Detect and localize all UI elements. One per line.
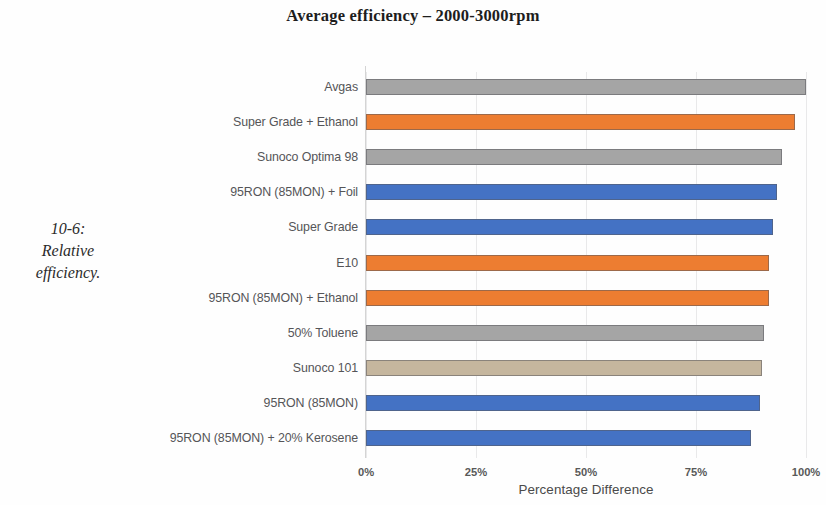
plot-area: AvgasSuper Grade + EthanolSunoco Optima … (366, 72, 806, 458)
bar (366, 219, 773, 235)
bar-row: Super Grade (366, 212, 806, 247)
chart-figure: Average efficiency – 2000-3000rpm 10-6: … (0, 0, 826, 505)
bar-row: 95RON (85MON) (366, 388, 806, 423)
category-label: Avgas (28, 79, 358, 95)
bar-row: E10 (366, 248, 806, 283)
bar-row: 95RON (85MON) + Foil (366, 177, 806, 212)
x-tick-label: 50% (551, 466, 621, 478)
category-label: Super Grade (28, 219, 358, 235)
bar (366, 290, 769, 306)
category-label: Sunoco 101 (28, 360, 358, 376)
category-label: Sunoco Optima 98 (28, 149, 358, 165)
gridline-100 (806, 72, 807, 458)
bar-row: 95RON (85MON) + 20% Kerosene (366, 423, 806, 458)
category-label: 95RON (85MON) + 20% Kerosene (28, 430, 358, 446)
bar (366, 79, 806, 95)
bar-row: 95RON (85MON) + Ethanol (366, 283, 806, 318)
category-label: 95RON (85MON) + Foil (28, 184, 358, 200)
bar (366, 255, 769, 271)
bar (366, 430, 751, 446)
category-label: 95RON (85MON) (28, 395, 358, 411)
bar (366, 360, 762, 376)
x-axis-title: Percentage Difference (366, 482, 806, 497)
bar-row: Sunoco Optima 98 (366, 142, 806, 177)
category-label: 50% Toluene (28, 325, 358, 341)
bar (366, 325, 764, 341)
bar (366, 149, 782, 165)
bar-row: 50% Toluene (366, 318, 806, 353)
x-tick-label: 100% (771, 466, 826, 478)
bar-row: Sunoco 101 (366, 353, 806, 388)
bar (366, 395, 760, 411)
bar-row: Super Grade + Ethanol (366, 107, 806, 142)
category-label: E10 (28, 255, 358, 271)
category-label: 95RON (85MON) + Ethanol (28, 290, 358, 306)
bar (366, 114, 795, 130)
x-tick-label: 75% (661, 466, 731, 478)
x-tick-label: 25% (441, 466, 511, 478)
category-label: Super Grade + Ethanol (28, 114, 358, 130)
bar (366, 184, 777, 200)
bar-row: Avgas (366, 72, 806, 107)
chart-title: Average efficiency – 2000-3000rpm (0, 6, 826, 26)
x-tick-label: 0% (331, 466, 401, 478)
